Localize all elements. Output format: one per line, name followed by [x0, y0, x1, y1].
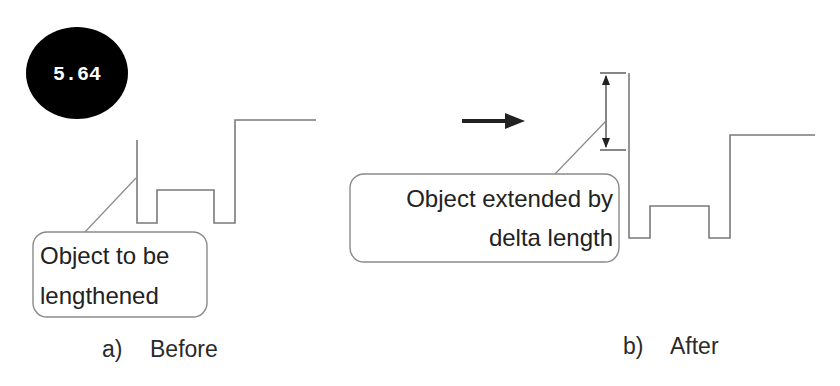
after-caption-letter: b) — [623, 333, 643, 359]
before-panel: Object to be lengthened a) Before — [33, 120, 316, 362]
figure-number: 5.64 — [53, 63, 101, 86]
before-leader-line — [85, 178, 136, 232]
figure-number-badge: 5.64 — [26, 27, 128, 119]
right-arrow-icon — [462, 113, 525, 129]
before-caption: Before — [150, 336, 218, 362]
before-object-profile — [137, 120, 316, 223]
after-object-profile — [629, 73, 815, 238]
before-callout-line-1: Object to be — [40, 242, 169, 269]
lengthen-diagram: 5.64 Object to be lengthened a) Before O… — [0, 0, 840, 386]
after-callout-line-1: Object extended by — [406, 185, 613, 212]
after-leader-line — [555, 121, 606, 174]
before-caption-letter: a) — [102, 336, 122, 362]
after-callout-line-2: delta length — [489, 224, 613, 251]
after-caption: After — [670, 333, 719, 359]
before-callout-line-2: lengthened — [40, 282, 159, 309]
after-panel: Object extended by delta length b) After — [350, 73, 815, 359]
double-headed-dimension-arrow-icon — [600, 73, 626, 150]
